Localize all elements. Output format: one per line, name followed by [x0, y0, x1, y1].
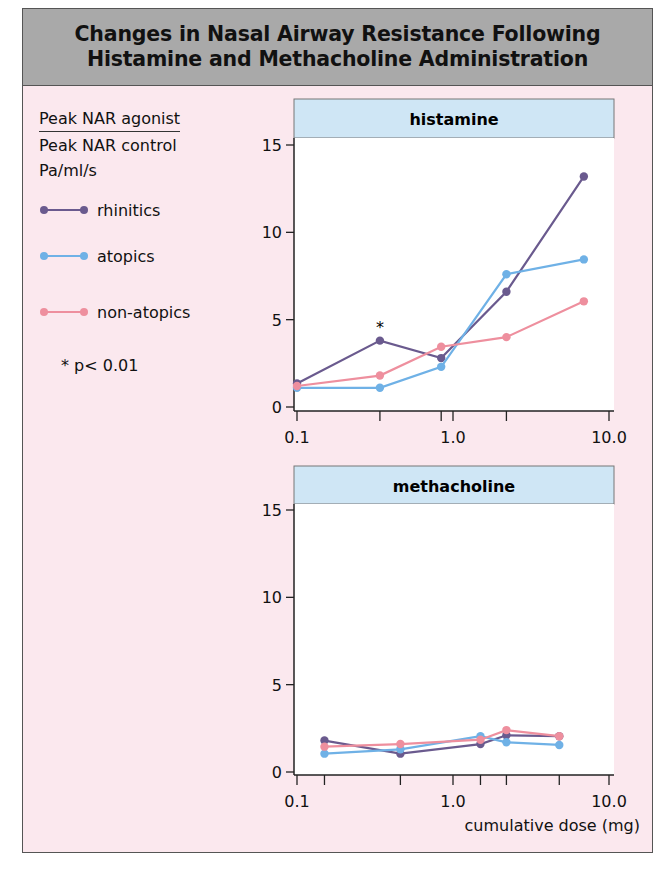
data-point [580, 297, 588, 305]
data-point [502, 726, 510, 734]
data-point [437, 343, 445, 351]
data-point [580, 255, 588, 263]
panel-title: histamine [409, 110, 498, 129]
y-tick-label: 5 [272, 311, 282, 330]
methacholine-chart: methacholine0510150.11.010.0cumulative d… [262, 466, 640, 835]
y-tick-label: 15 [262, 136, 282, 155]
x-tick-label: 10.0 [591, 428, 627, 447]
plot-area [294, 504, 614, 775]
plot-area [294, 138, 614, 411]
x-tick-label: 1.0 [440, 792, 465, 811]
histamine-chart: histamine0510150.11.010.0* [262, 99, 627, 447]
data-point [293, 382, 301, 390]
data-point [502, 333, 510, 341]
x-tick-label: 0.1 [284, 428, 309, 447]
data-point [555, 732, 563, 740]
charts-canvas: histamine0510150.11.010.0* methacholine0… [0, 0, 662, 869]
x-tick-label: 0.1 [284, 792, 309, 811]
data-point [376, 336, 384, 344]
significance-marker: * [376, 318, 384, 337]
data-point [320, 742, 328, 750]
panel-title: methacholine [393, 477, 516, 496]
y-tick-label: 0 [272, 763, 282, 782]
data-point [396, 740, 404, 748]
data-point [502, 270, 510, 278]
data-point [476, 735, 484, 743]
y-tick-label: 10 [262, 223, 282, 242]
y-tick-label: 0 [272, 398, 282, 417]
data-point [555, 741, 563, 749]
y-tick-label: 5 [272, 676, 282, 695]
x-tick-label: 1.0 [440, 428, 465, 447]
x-tick-label: 10.0 [591, 792, 627, 811]
data-point [502, 738, 510, 746]
x-axis-label: cumulative dose (mg) [465, 816, 640, 835]
y-tick-label: 15 [262, 501, 282, 520]
data-point [437, 363, 445, 371]
data-point [502, 288, 510, 296]
y-tick-label: 10 [262, 588, 282, 607]
data-point [376, 384, 384, 392]
data-point [376, 371, 384, 379]
data-point [580, 172, 588, 180]
